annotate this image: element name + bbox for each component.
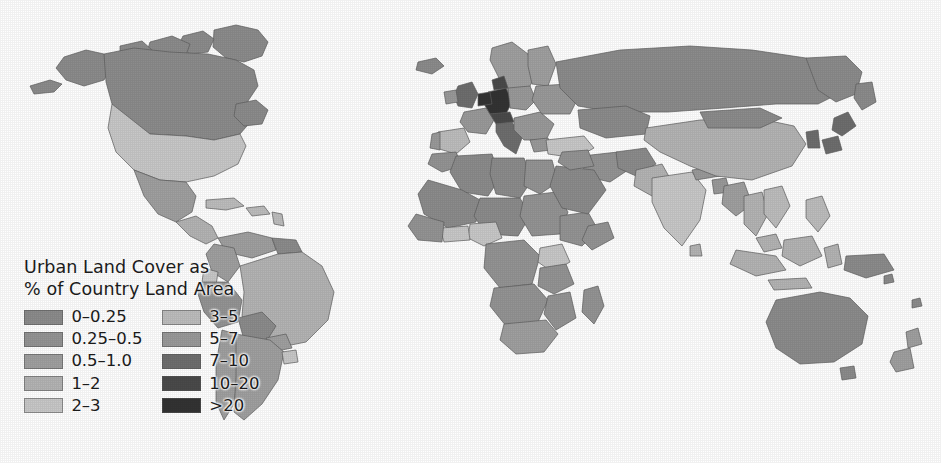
legend-title-line-1: Urban Land Cover as xyxy=(24,256,260,278)
legend-swatch-cell xyxy=(24,373,63,395)
region-ireland xyxy=(444,90,458,104)
legend-swatch-cell xyxy=(24,350,63,372)
legend-label: 0.5–1.0 xyxy=(63,350,153,372)
legend-swatch xyxy=(162,376,201,391)
region-lesser-antilles xyxy=(272,212,284,226)
legend-swatch-cell xyxy=(24,395,63,417)
legend-label: 1–2 xyxy=(63,373,153,395)
legend-swatch-cell xyxy=(153,350,201,372)
region-ghana-coast xyxy=(440,226,470,242)
region-fiji xyxy=(912,298,922,308)
legend-swatch xyxy=(24,376,63,391)
legend-swatch xyxy=(24,398,63,413)
legend-swatch-cell xyxy=(153,328,201,350)
region-tasmania xyxy=(840,366,856,380)
legend-label: 0.25–0.5 xyxy=(63,328,153,350)
legend-label: 7–10 xyxy=(201,350,260,372)
legend-swatch-grid: 0–0.25 3–5 0.25–0.5 5–7 0.5–1.0 7–10 xyxy=(24,306,260,417)
legend-swatch xyxy=(162,310,201,325)
legend-label: 10–20 xyxy=(201,373,260,395)
figure-root: Urban Land Cover as % of Country Land Ar… xyxy=(0,0,941,463)
legend-swatch xyxy=(24,332,63,347)
region-indonesia-java xyxy=(768,278,812,290)
legend-label: 5–7 xyxy=(201,328,260,350)
map-legend: Urban Land Cover as % of Country Land Ar… xyxy=(24,256,260,417)
legend-swatch-cell xyxy=(153,373,201,395)
legend-title-line-2: % of Country Land Area xyxy=(24,278,260,300)
legend-title: Urban Land Cover as % of Country Land Ar… xyxy=(24,256,260,300)
legend-swatch xyxy=(162,398,201,413)
legend-label: >20 xyxy=(201,395,260,417)
legend-swatch xyxy=(24,310,63,325)
legend-label: 3–5 xyxy=(201,306,260,328)
legend-swatch xyxy=(24,354,63,369)
legend-label: 0–0.25 xyxy=(63,306,153,328)
legend-swatch-cell xyxy=(153,395,201,417)
region-benelux xyxy=(478,92,492,106)
legend-swatch xyxy=(162,354,201,369)
legend-swatch-cell xyxy=(153,306,201,328)
legend-label: 2–3 xyxy=(63,395,153,417)
legend-swatch-cell xyxy=(24,306,63,328)
legend-swatch xyxy=(162,332,201,347)
region-uruguay xyxy=(282,350,298,364)
legend-swatch-cell xyxy=(24,328,63,350)
region-pacific-islands xyxy=(884,274,894,284)
region-sri-lanka xyxy=(690,244,702,256)
region-korea xyxy=(806,130,820,148)
